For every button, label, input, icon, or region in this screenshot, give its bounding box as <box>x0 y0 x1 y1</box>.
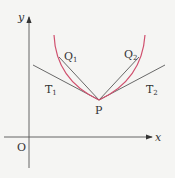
point-p-label: P <box>95 104 103 117</box>
chord-line-2 <box>99 57 139 100</box>
t2-label: T2 <box>146 83 158 97</box>
y-axis-label: y <box>17 11 25 24</box>
diagram: y x O P Q1 Q2 T1 T2 <box>0 0 175 178</box>
x-axis-label: x <box>155 131 162 144</box>
origin-label: O <box>17 141 26 154</box>
curve <box>54 35 145 100</box>
t1-label: T1 <box>45 83 57 97</box>
q2-label: Q2 <box>124 48 138 62</box>
q1-label: Q1 <box>64 50 78 64</box>
chord-line-1 <box>59 57 99 100</box>
